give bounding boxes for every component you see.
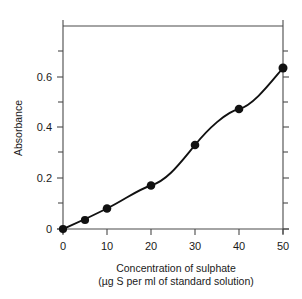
data-point-0 — [59, 225, 67, 233]
x-tick-label-10: 10 — [101, 240, 113, 252]
y-tick-label-0: 0 — [46, 223, 52, 235]
x-tick-label-30: 30 — [189, 240, 201, 252]
calibration-curve — [63, 68, 283, 229]
data-point-10 — [103, 204, 112, 213]
absorbance-vs-concentration-chart: 0 0.2 0.4 0.6 0 10 20 30 40 50 Absorbanc… — [0, 0, 302, 299]
data-point-50 — [279, 64, 288, 73]
data-point-40 — [235, 105, 244, 114]
x-tick-label-40: 40 — [233, 240, 245, 252]
data-point-20 — [147, 181, 156, 190]
y-axis-title: Absorbance — [12, 100, 24, 156]
y-tick-label-0_4: 0.4 — [37, 121, 52, 133]
y-tick-label-0_2: 0.2 — [37, 172, 52, 184]
x-tick-label-0: 0 — [60, 240, 66, 252]
x-tick-label-50: 50 — [277, 240, 289, 252]
chart-figure: 0 0.2 0.4 0.6 0 10 20 30 40 50 Absorbanc… — [0, 0, 302, 299]
x-axis-title-line2: (µg S per ml of standard solution) — [98, 275, 253, 287]
x-axis-title-line1: Concentration of sulphate — [116, 262, 236, 274]
data-point-30 — [191, 141, 200, 150]
x-tick-label-20: 20 — [145, 240, 157, 252]
data-point-5 — [81, 216, 89, 224]
y-tick-label-0_6: 0.6 — [37, 71, 52, 83]
